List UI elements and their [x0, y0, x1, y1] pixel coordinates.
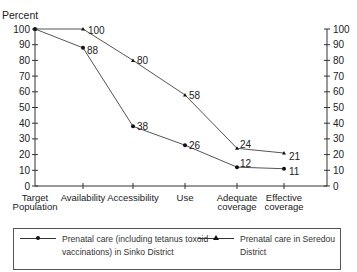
- y-tick-label-right: 0: [333, 181, 339, 192]
- y-tick-label-right: 100: [333, 24, 350, 35]
- x-tick-label: coverage: [217, 201, 256, 212]
- legend-item-sinko: Prenatal care (including tetanus toxoid …: [20, 233, 208, 259]
- y-tick-label: 10: [19, 165, 31, 176]
- y-tick-label: 20: [19, 149, 31, 160]
- y-tick-label-right: 30: [333, 133, 345, 144]
- data-label: 58: [189, 90, 201, 101]
- data-label: 100: [88, 25, 105, 36]
- line-chart: Percent 00101020203030404050506060707080…: [0, 0, 357, 228]
- y-tick-label-right: 80: [333, 55, 345, 66]
- x-tick-label: Use: [177, 192, 194, 203]
- y-tick-label: 50: [19, 102, 31, 113]
- x-tick-label: Accessibility: [107, 192, 159, 203]
- circle-marker-icon: [282, 167, 286, 171]
- data-label: 11: [289, 166, 300, 177]
- x-tick-label: Population: [13, 201, 58, 212]
- series-lines: 883826121110080582421: [33, 25, 301, 178]
- triangle-marker-icon: [131, 58, 135, 62]
- legend-item-seredou: Prenatal care in Seredou District: [198, 233, 340, 259]
- legend-label: Prenatal care (including tetanus toxoid: [62, 233, 208, 246]
- y-axis-label: Percent: [2, 9, 38, 21]
- triangle-marker-line-icon: [198, 233, 234, 243]
- y-tick-label-right: 20: [333, 149, 345, 160]
- circle-marker-icon: [183, 143, 187, 147]
- data-label: 24: [240, 139, 252, 150]
- legend: Prenatal care (including tetanus toxoid …: [13, 228, 341, 270]
- legend-label: vaccinations) in Sinko District: [62, 246, 208, 259]
- y-tick-label-right: 40: [333, 118, 345, 129]
- y-tick-label-right: 50: [333, 102, 345, 113]
- y-tick-label-right: 90: [333, 39, 345, 50]
- data-label: 80: [137, 55, 149, 66]
- y-tick-label: 30: [19, 133, 31, 144]
- y-tick-label-right: 60: [333, 86, 345, 97]
- legend-label: Prenatal care in Seredou District: [240, 233, 340, 259]
- circle-marker-icon: [131, 124, 135, 128]
- data-label: 12: [240, 158, 252, 169]
- y-tick-label: 0: [24, 181, 30, 192]
- series-line: [35, 29, 284, 153]
- data-label: 38: [137, 121, 149, 132]
- y-tick-label: 100: [13, 24, 30, 35]
- axes: 0010102020303040405050606070708080909010…: [13, 24, 351, 213]
- circle-marker-icon: [81, 46, 85, 50]
- data-label: 21: [289, 151, 301, 162]
- x-tick-label: coverage: [264, 201, 303, 212]
- y-tick-label: 60: [19, 86, 31, 97]
- circle-marker-icon: [235, 165, 239, 169]
- y-tick-label: 90: [19, 39, 31, 50]
- x-tick-label: Availability: [61, 192, 106, 203]
- y-tick-label-right: 70: [333, 71, 345, 82]
- y-tick-label-right: 10: [333, 165, 345, 176]
- y-tick-label: 70: [19, 71, 31, 82]
- y-tick-label: 80: [19, 55, 31, 66]
- y-tick-label: 40: [19, 118, 31, 129]
- data-label: 26: [189, 140, 201, 151]
- data-label: 88: [87, 45, 99, 56]
- circle-marker-line-icon: [20, 233, 56, 243]
